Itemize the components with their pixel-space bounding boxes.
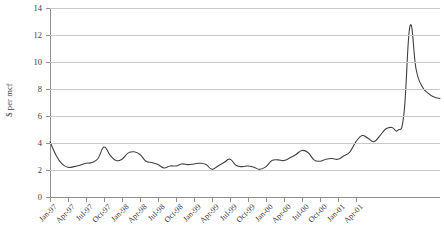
line-chart: $ per mcf 02468101214 Jan-97Apr-97Jul-97… [0, 0, 444, 240]
x-tick-mark [320, 198, 321, 202]
gridline [50, 8, 440, 9]
x-tick-mark [230, 198, 231, 202]
y-tick-label: 2 [38, 166, 42, 175]
x-tick-label: Apr-01 [343, 203, 365, 225]
y-tick-label: 6 [38, 112, 42, 121]
gridline [50, 35, 440, 36]
y-tick-mark [46, 89, 50, 90]
x-tick-mark [284, 198, 285, 202]
gridline [50, 89, 440, 90]
x-tick-label: Apr-99 [199, 203, 221, 225]
y-axis-title-label: $ per mcf [4, 83, 14, 116]
x-tick-mark [338, 198, 339, 202]
gridline [50, 143, 440, 144]
x-tick-mark [212, 198, 213, 202]
y-tick-mark [46, 8, 50, 9]
gridline [50, 170, 440, 171]
y-axis-title: $ per mcf [0, 0, 18, 200]
x-tick-label: Apr-98 [127, 203, 149, 225]
y-axis-tick-labels: 02468101214 [18, 0, 46, 205]
x-tick-mark [68, 198, 69, 202]
x-tick-mark [122, 198, 123, 202]
x-tick-mark [176, 198, 177, 202]
x-tick-mark [86, 198, 87, 202]
x-tick-label: Oct-00 [307, 203, 328, 224]
x-tick-mark [104, 198, 105, 202]
x-tick-label: Oct-97 [91, 203, 112, 224]
x-tick-mark [158, 198, 159, 202]
y-tick-label: 10 [34, 58, 43, 67]
x-tick-mark [194, 198, 195, 202]
x-tick-mark [248, 198, 249, 202]
y-tick-mark [46, 143, 50, 144]
y-tick-label: 4 [38, 139, 42, 148]
y-tick-mark [46, 170, 50, 171]
x-tick-mark [266, 198, 267, 202]
x-tick-label: Oct-98 [163, 203, 184, 224]
plot-area [50, 8, 440, 197]
x-tick-label: Apr-00 [271, 203, 293, 225]
x-axis-line [50, 197, 440, 198]
y-tick-label: 14 [34, 4, 43, 13]
price-series-path [50, 25, 440, 170]
x-axis-tick-labels: Jan-97Apr-97Jul-97Oct-97Jan-98Apr-98Jul-… [0, 200, 444, 240]
x-tick-mark [356, 198, 357, 202]
x-tick-mark [50, 198, 51, 202]
x-tick-label: Apr-97 [55, 203, 77, 225]
y-tick-mark [46, 35, 50, 36]
price-series-line [50, 8, 440, 197]
gridline [50, 116, 440, 117]
gridline [50, 62, 440, 63]
y-tick-mark [46, 116, 50, 117]
x-tick-mark [302, 198, 303, 202]
y-tick-mark [46, 62, 50, 63]
x-tick-mark [140, 198, 141, 202]
y-tick-label: 8 [38, 85, 42, 94]
y-tick-label: 12 [34, 31, 43, 40]
x-tick-label: Oct-99 [235, 203, 256, 224]
